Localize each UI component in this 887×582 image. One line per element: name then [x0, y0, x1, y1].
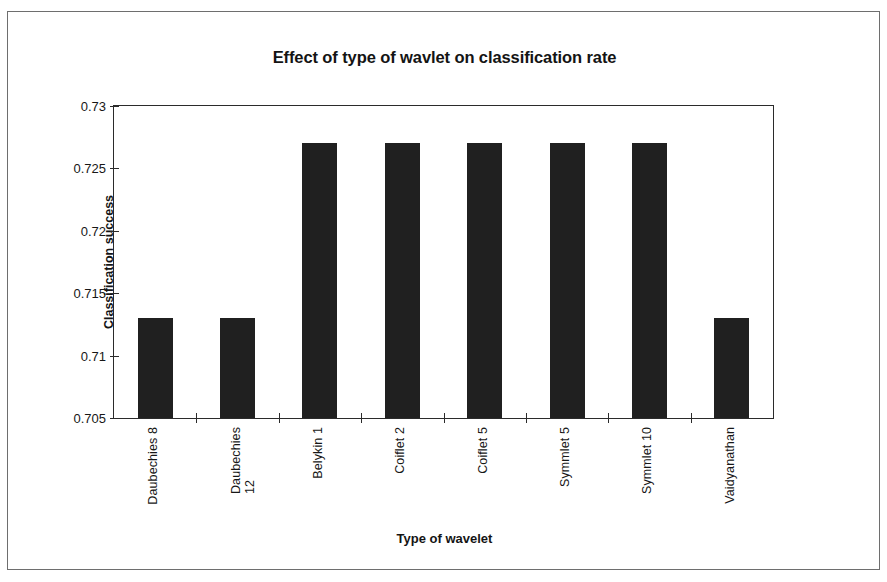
y-tick-label: 0.715 [46, 286, 106, 301]
bar [302, 143, 337, 418]
bar [632, 143, 667, 418]
x-axis-category-labels: Daubechies 8Daubechies 12Belykin 1Coifle… [113, 417, 772, 527]
y-tick-mark [110, 356, 119, 357]
y-tick-mark [110, 106, 119, 107]
bar [714, 318, 749, 418]
bar [138, 318, 173, 418]
x-category-label: Symmlet 10 [640, 427, 654, 494]
x-axis-title: Type of wavelet [8, 531, 881, 546]
y-tick-mark [110, 293, 119, 294]
x-category-label: Coiflet 2 [393, 427, 407, 474]
y-tick-label: 0.725 [46, 161, 106, 176]
plot-area: Classification success 0.730.7250.720.71… [113, 105, 774, 419]
bar [220, 318, 255, 418]
y-axis-title: Classification success [102, 195, 116, 329]
y-tick-label: 0.73 [46, 99, 106, 114]
x-category-label: Symmlet 5 [558, 427, 572, 487]
bar [550, 143, 585, 418]
figure-frame: Effect of type of wavlet on classificati… [7, 11, 880, 570]
x-category-label: Daubechies 8 [146, 427, 160, 505]
x-category-label: Daubechies 12 [229, 427, 258, 494]
y-tick-label: 0.705 [46, 411, 106, 426]
bar [385, 143, 420, 418]
y-tick-mark [110, 231, 119, 232]
x-category-label: Coiflet 5 [476, 427, 490, 474]
bar [467, 143, 502, 418]
y-tick-label: 0.71 [46, 348, 106, 363]
x-category-label: Belykin 1 [311, 427, 325, 479]
y-tick-mark [110, 168, 119, 169]
chart-title: Effect of type of wavlet on classificati… [8, 48, 881, 67]
y-tick-label: 0.72 [46, 223, 106, 238]
x-category-label: Vaidyanathan [723, 427, 737, 504]
